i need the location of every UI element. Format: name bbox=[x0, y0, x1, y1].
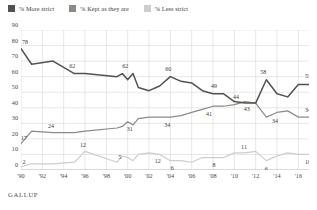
x-axis: '90'92'94'96'98'00'02'04'06'08'10'12'14'… bbox=[21, 172, 309, 186]
x-tick-label: '92 bbox=[39, 172, 46, 179]
x-tick-label: '14 bbox=[273, 172, 280, 179]
data-label: 8 bbox=[213, 162, 216, 168]
data-label: 78 bbox=[22, 39, 28, 45]
x-tick-label: '04 bbox=[167, 172, 174, 179]
data-label: 12 bbox=[155, 158, 161, 164]
data-label: 34 bbox=[272, 118, 278, 124]
data-label: 6 bbox=[265, 166, 268, 170]
data-label: 34 bbox=[164, 122, 170, 128]
series-line-2[interactable] bbox=[21, 151, 309, 167]
data-label: 5 bbox=[119, 154, 122, 160]
data-label: 2 bbox=[23, 159, 26, 165]
x-tick-label: '08 bbox=[209, 172, 216, 179]
legend-item-kept[interactable]: % Kept as they are bbox=[69, 5, 129, 12]
data-label: 58 bbox=[260, 69, 266, 75]
y-tick-label: 90 bbox=[12, 21, 18, 28]
data-label: 49 bbox=[211, 83, 217, 89]
data-label: 6 bbox=[171, 165, 174, 170]
x-tick-label: '98 bbox=[103, 172, 110, 179]
x-tick-label: '96 bbox=[81, 172, 88, 179]
x-tick-label: '90 bbox=[17, 172, 24, 179]
chart-svg: 7862626049445855172431344143343421251268… bbox=[21, 30, 309, 170]
y-tick-label: 10 bbox=[12, 145, 18, 152]
data-label: 55 bbox=[305, 73, 309, 79]
y-tick-label: 20 bbox=[12, 129, 18, 136]
y-axis: 0102030405060708090 bbox=[0, 24, 21, 164]
source-label: GALLUP bbox=[8, 191, 38, 198]
x-tick-label: '06 bbox=[188, 172, 195, 179]
y-tick-label: 80 bbox=[12, 36, 18, 43]
data-label: 10 bbox=[305, 159, 309, 165]
legend-swatch-icon-less bbox=[144, 5, 151, 12]
y-tick-label: 30 bbox=[12, 114, 18, 121]
data-label: 11 bbox=[241, 144, 247, 150]
legend-label-more: % More strict bbox=[19, 5, 54, 12]
x-tick-label: '12 bbox=[252, 172, 259, 179]
data-label: 24 bbox=[48, 123, 54, 129]
x-tick-label: '00 bbox=[124, 172, 131, 179]
gallup-gun-law-line-chart: % More strict% Kept as they are% Less st… bbox=[0, 0, 317, 210]
x-tick-label: '02 bbox=[145, 172, 152, 179]
x-tick-label: '10 bbox=[231, 172, 238, 179]
data-label: 60 bbox=[165, 66, 171, 72]
data-label: 62 bbox=[122, 63, 128, 69]
x-tick-label: '94 bbox=[60, 172, 67, 179]
legend-swatch-icon-more bbox=[8, 5, 15, 12]
data-label: 62 bbox=[69, 63, 75, 69]
data-label: 34 bbox=[305, 107, 309, 113]
y-tick-label: 40 bbox=[12, 98, 18, 105]
data-label: 41 bbox=[206, 111, 212, 117]
legend-item-more[interactable]: % More strict bbox=[8, 5, 54, 12]
chart-legend: % More strict% Kept as they are% Less st… bbox=[8, 5, 203, 12]
y-tick-label: 70 bbox=[12, 52, 18, 59]
y-tick-label: 50 bbox=[12, 83, 18, 90]
data-label: 31 bbox=[127, 126, 133, 132]
x-tick-label: '16 bbox=[295, 172, 302, 179]
legend-label-kept: % Kept as they are bbox=[80, 5, 129, 12]
y-tick-label: 60 bbox=[12, 67, 18, 74]
data-label: 12 bbox=[80, 142, 86, 148]
data-label: 17 bbox=[21, 135, 27, 141]
legend-swatch-icon-kept bbox=[69, 5, 76, 12]
y-tick-label: 0 bbox=[15, 161, 18, 168]
plot-area: 7862626049445855172431344143343421251268… bbox=[21, 30, 309, 170]
series-line-0[interactable] bbox=[21, 49, 309, 103]
legend-item-less[interactable]: % Less strict bbox=[144, 5, 188, 12]
data-label: 44 bbox=[233, 94, 239, 100]
data-label: 43 bbox=[244, 106, 250, 112]
legend-label-less: % Less strict bbox=[155, 5, 188, 12]
